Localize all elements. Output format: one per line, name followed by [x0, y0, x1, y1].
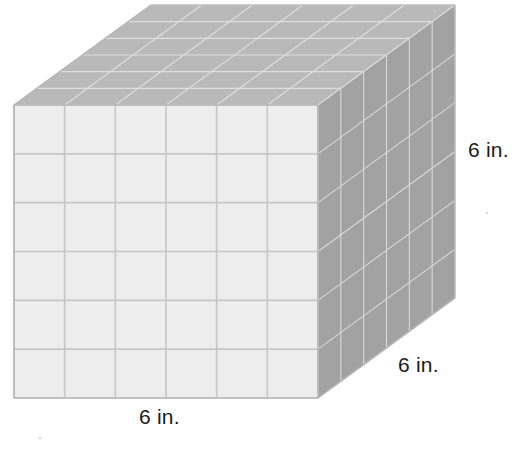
speck-mark [39, 437, 41, 439]
dimension-label-depth: 6 in. [398, 354, 439, 375]
front-face [14, 105, 318, 398]
cube-faces [14, 5, 455, 398]
speck-mark [486, 212, 488, 214]
dimension-label-height: 6 in. [468, 139, 509, 160]
cube-illustration [0, 0, 521, 451]
dimension-label-width: 6 in. [139, 406, 180, 427]
cube-figure: 6 in. 6 in. 6 in. [0, 0, 521, 451]
